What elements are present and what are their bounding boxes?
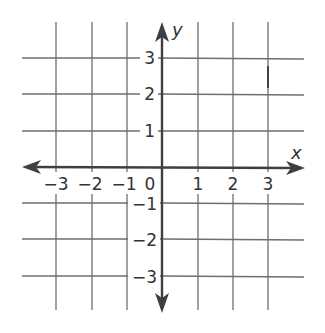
y-tick-label: 1 (144, 121, 155, 141)
origin-label: 0 (145, 174, 156, 194)
grid-line-y-neg2-right (160, 239, 304, 240)
y-tick-label: 2 (144, 84, 155, 104)
y-tick-label: −1 (132, 194, 157, 214)
y-tick-label: −2 (132, 230, 157, 250)
grid-line-y-neg1-right (160, 203, 304, 204)
x-axis-line (30, 167, 297, 168)
grid-line-y-3-right (158, 58, 304, 59)
x-tick-label: 1 (193, 174, 204, 194)
grid-line-y-neg3-right (160, 276, 304, 277)
x-tick-label: 2 (228, 174, 239, 194)
x-tick-label: −1 (111, 174, 136, 194)
y-tick-label: −3 (132, 267, 157, 287)
x-tick-label: −2 (77, 174, 102, 194)
y-axis-label: y (171, 19, 183, 40)
x-axis-label: x (290, 142, 302, 163)
y-tick-label: 3 (144, 48, 155, 68)
x-tick-label: −3 (43, 174, 68, 194)
x-tick-label: 3 (263, 174, 274, 194)
coordinate-plane: y x −3 −2 −1 1 2 3 0 3 2 1 −1 −2 −3 (0, 0, 325, 333)
grid-line-y-2-right (158, 94, 304, 95)
